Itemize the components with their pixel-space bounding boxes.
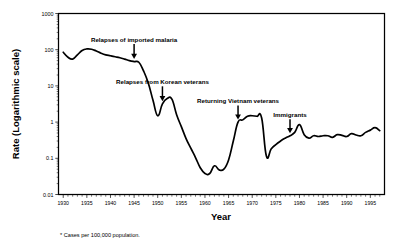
y-axis-ticks: 10001001010.10.01	[42, 11, 59, 198]
annotation-arrow-head	[287, 128, 293, 133]
y-tick-label: 0.01	[43, 192, 54, 198]
annotation-arrow-head	[131, 54, 137, 59]
x-tick-label: 1985	[317, 200, 329, 206]
x-tick-label: 1995	[365, 200, 377, 206]
x-tick-label: 1950	[152, 200, 164, 206]
x-tick-label: 1990	[341, 200, 353, 206]
y-tick-label: 1	[51, 119, 54, 125]
annotation-label: Immigrants	[273, 111, 307, 118]
y-axis-title: Rate (Logarithmic scale)	[10, 49, 21, 159]
chart-canvas: 10001001010.10.01 1930193519401945195019…	[0, 0, 404, 243]
footnote: * Cases per 100,000 population.	[60, 232, 140, 238]
x-tick-label: 1980	[294, 200, 306, 206]
x-tick-label: 1930	[57, 200, 69, 206]
x-tick-label: 1955	[176, 200, 188, 206]
data-series-line	[63, 49, 380, 175]
annotation-label: Returning Vietnam veterans	[197, 97, 280, 104]
x-axis-ticks: 1930193519401945195019551960196519701975…	[57, 195, 379, 207]
x-axis-title: Year	[211, 211, 231, 222]
annotation-label: Relapses from Korean veterans	[116, 78, 209, 85]
y-tick-label: 100	[45, 47, 54, 53]
y-tick-label: 10	[48, 83, 54, 89]
annotation-group: Relapses of imported malariaRelapses fro…	[91, 36, 307, 134]
x-tick-label: 1945	[128, 200, 140, 206]
x-tick-label: 1970	[246, 200, 258, 206]
x-tick-label: 1965	[223, 200, 235, 206]
malaria-rate-chart-figure: 10001001010.10.01 1930193519401945195019…	[0, 0, 404, 243]
annotation-label: Relapses of imported malaria	[91, 36, 178, 43]
x-tick-label: 1935	[81, 200, 93, 206]
y-tick-label: 0.1	[46, 155, 54, 161]
x-tick-label: 1975	[270, 200, 282, 206]
y-tick-label: 1000	[42, 11, 54, 17]
x-tick-label: 1940	[105, 200, 117, 206]
annotation-arrow-head	[235, 114, 241, 119]
x-tick-label: 1960	[199, 200, 211, 206]
